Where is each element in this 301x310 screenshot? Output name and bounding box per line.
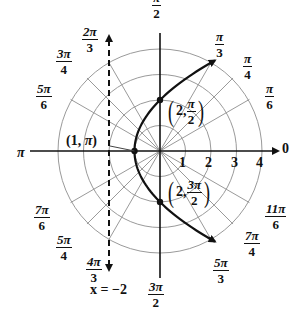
point-2-pi-over-2	[157, 97, 163, 103]
angle-label-3pi-4: 3π4	[56, 47, 72, 76]
directrix-label: x = −2	[90, 283, 127, 297]
angle-label-11pi-6: 11π6	[265, 202, 286, 231]
angle-label-5pi-6: 5π6	[36, 82, 52, 111]
angle-label-5pi-4: 5π4	[56, 233, 72, 262]
point-label-2-3pi-2: ( 2, 3π2 )	[166, 177, 212, 207]
ring-label-2: 2	[205, 156, 212, 170]
ring-label-3: 3	[231, 156, 238, 170]
angle-label-pi-3: π3	[215, 30, 224, 59]
ring-label-4: 4	[256, 156, 263, 170]
angle-label-4pi-3: 4π3	[86, 255, 102, 284]
angle-label-5pi-3: 5π3	[213, 256, 229, 285]
angle-label-pi-2: π2	[152, 0, 161, 20]
angle-label-7pi-6: 7π6	[34, 203, 50, 232]
grid-ray	[87, 78, 160, 151]
angle-label-3pi-2: 3π2	[148, 280, 164, 309]
angle-label-2pi-3: 2π3	[82, 25, 98, 54]
point-label-2-pi-2: ( 2, π2 )	[166, 96, 206, 126]
point-2-3pi-over-2	[157, 199, 163, 205]
grid-ray	[87, 151, 160, 224]
angle-label-7pi-4: 7π4	[244, 229, 260, 258]
angle-label-pi-4: π4	[243, 52, 252, 81]
point-label-vertex: (1, π)	[66, 134, 97, 148]
ring-label-1: 1	[179, 156, 186, 170]
angle-label-pi: π	[17, 146, 25, 160]
parabola-lower-arrow	[208, 238, 215, 242]
angle-label-0: 0	[282, 142, 289, 156]
angle-label-pi-6: π6	[265, 82, 274, 111]
